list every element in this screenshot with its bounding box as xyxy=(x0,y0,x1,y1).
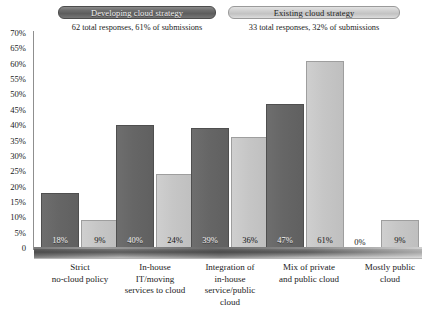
cloud-strategy-bar-chart: Developing cloud strategy Existing cloud… xyxy=(0,0,426,325)
x-category-line: Integration of xyxy=(190,262,270,274)
axis-baseline-3d xyxy=(34,247,422,258)
x-category-mix-of-private-and-public-cloud: Mix of private and public cloud xyxy=(266,262,352,285)
x-category-mostly-public-cloud: Mostly public cloud xyxy=(354,262,426,285)
bar-existing-mostly-public-cloud: 9% xyxy=(381,220,419,248)
bar-label: 9% xyxy=(382,236,418,245)
bar-label: 36% xyxy=(232,236,268,245)
y-tick-5: 5% xyxy=(0,229,26,238)
cropped-text-artifact xyxy=(0,0,426,3)
y-tick-50: 50% xyxy=(0,90,26,99)
y-tick-25: 25% xyxy=(0,167,26,176)
bar-existing-strict-no-cloud-policy: 9% xyxy=(81,220,119,248)
bar-developing-integration-in-house-public: 39% xyxy=(191,128,229,248)
legend-existing-subtitle: 33 total responses, 32% of submissions xyxy=(228,23,400,32)
bar-existing-integration-in-house-public: 36% xyxy=(231,137,269,248)
bar-label: 40% xyxy=(117,236,153,245)
bar-label: 47% xyxy=(267,236,303,245)
legend-developing-cloud-strategy: Developing cloud strategy xyxy=(58,6,216,19)
x-category-line: in-house xyxy=(190,274,270,286)
y-tick-15: 15% xyxy=(0,198,26,207)
y-tick-60: 60% xyxy=(0,60,26,69)
y-tick-40: 40% xyxy=(0,121,26,130)
legend-developing-label: Developing cloud strategy xyxy=(91,8,183,18)
y-tick-35: 35% xyxy=(0,137,26,146)
x-category-line: cloud xyxy=(354,274,426,286)
bar-developing-strict-no-cloud-policy: 18% xyxy=(41,193,79,248)
y-tick-0: 0 xyxy=(0,244,26,253)
x-category-line: and public cloud xyxy=(266,274,352,286)
x-category-line: Mostly public xyxy=(354,262,426,274)
y-tick-70: 70% xyxy=(0,29,26,38)
bar-label: 9% xyxy=(82,236,118,245)
y-tick-10: 10% xyxy=(0,213,26,222)
bar-label: 0% xyxy=(341,238,379,247)
bar-developing-in-house-it-moving-services: 40% xyxy=(116,125,154,248)
x-category-line: cloud xyxy=(190,297,270,309)
x-category-line: In-house xyxy=(107,262,203,274)
bar-existing-in-house-it-moving-services: 24% xyxy=(156,174,194,248)
bar-label: 18% xyxy=(42,236,78,245)
plot-area: 70% 65% 60% 55% 50% 45% 40% 35% 30% 25% … xyxy=(34,33,422,248)
legend-existing-label: Existing cloud strategy xyxy=(274,8,355,18)
bar-label: 61% xyxy=(307,236,343,245)
legend-developing-subtitle: 62 total responses, 61% of submissions xyxy=(58,23,216,32)
x-category-line: IT/moving xyxy=(107,274,203,286)
x-axis-category-labels: Strict no-cloud policy In-house IT/movin… xyxy=(34,262,422,322)
x-category-integration-of-in-house-service-public-cloud: Integration of in-house service/public c… xyxy=(190,262,270,308)
bar-existing-mix-private-public-cloud: 61% xyxy=(306,61,344,248)
y-tick-65: 65% xyxy=(0,44,26,53)
y-tick-30: 30% xyxy=(0,152,26,161)
y-tick-55: 55% xyxy=(0,75,26,84)
baseline-shading xyxy=(34,249,422,258)
bar-developing-mix-private-public-cloud: 47% xyxy=(266,104,304,248)
y-tick-45: 45% xyxy=(0,106,26,115)
y-tick-20: 20% xyxy=(0,183,26,192)
x-category-line: Mix of private xyxy=(266,262,352,274)
x-category-in-house-it-moving-services-to-cloud: In-house IT/moving services to cloud xyxy=(107,262,203,297)
bar-label: 24% xyxy=(157,236,193,245)
legend-existing-cloud-strategy: Existing cloud strategy xyxy=(228,6,400,19)
x-category-line: services to cloud xyxy=(107,285,203,297)
x-category-line: service/public xyxy=(190,285,270,297)
bar-label: 39% xyxy=(192,236,228,245)
